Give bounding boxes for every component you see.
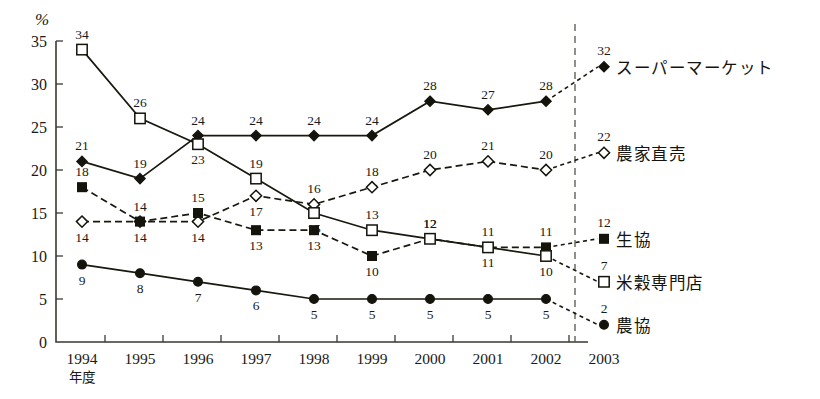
legend-entry[interactable]: 7米穀専門店 xyxy=(601,258,704,293)
y-axis-unit-label: % xyxy=(35,10,49,29)
legend-value: 32 xyxy=(597,43,611,58)
x-axis-tick-label: 1997 xyxy=(241,350,272,367)
marker-filled-circle xyxy=(252,286,261,295)
marker-open-square xyxy=(541,251,551,261)
marker-filled-diamond xyxy=(599,62,609,72)
marker-filled-circle xyxy=(542,295,551,304)
data-series xyxy=(78,260,609,329)
marker-filled-circle xyxy=(310,295,319,304)
data-point-label: 17 xyxy=(249,204,263,219)
x-axis-tick-label: 1994 xyxy=(67,350,98,367)
y-axis-tick-label: 15 xyxy=(31,205,47,222)
y-axis-tick-label: 35 xyxy=(31,33,47,50)
y-axis-tick-label: 10 xyxy=(31,248,47,265)
data-point-label: 34 xyxy=(75,27,89,42)
legend-entry[interactable]: 12生協 xyxy=(597,215,651,250)
marker-filled-circle xyxy=(600,320,609,329)
y-axis-tick-label: 0 xyxy=(39,334,47,351)
marker-filled-diamond xyxy=(483,105,493,115)
axis-layer: 05101520253035%1994199519961997199819992… xyxy=(31,10,620,385)
data-point-label: 23 xyxy=(191,152,205,167)
data-point-label: 28 xyxy=(423,78,437,93)
data-point-label: 27 xyxy=(481,87,495,102)
legend-entry[interactable]: 2農協 xyxy=(601,301,651,336)
data-point-label: 24 xyxy=(365,113,379,128)
marker-filled-square xyxy=(194,209,203,218)
data-point-label: 26 xyxy=(133,95,147,110)
data-point-label: 20 xyxy=(423,147,437,162)
data-point-label: 14 xyxy=(133,230,147,245)
marker-open-square xyxy=(425,234,435,244)
data-point-label: 12 xyxy=(423,216,437,231)
marker-open-diamond xyxy=(598,147,609,158)
legend-label: スーパーマーケット xyxy=(616,59,774,78)
data-point-label: 11 xyxy=(482,224,495,239)
y-axis-tick-label: 30 xyxy=(31,76,47,93)
data-point-label: 8 xyxy=(137,281,144,296)
marker-filled-square xyxy=(252,226,261,235)
marker-open-square xyxy=(367,225,377,235)
chart-axes xyxy=(56,41,588,342)
data-series xyxy=(76,147,609,227)
legend-entry[interactable]: 22農家直売 xyxy=(597,129,686,164)
legend-value: 12 xyxy=(597,215,611,230)
marker-open-square xyxy=(77,44,87,54)
data-point-label: 5 xyxy=(369,307,376,322)
legend-value: 22 xyxy=(597,129,611,144)
data-point-label: 19 xyxy=(133,156,147,171)
data-point-label: 18 xyxy=(365,164,379,179)
data-point-label: 19 xyxy=(249,156,263,171)
data-point-label: 11 xyxy=(540,224,553,239)
marker-filled-diamond xyxy=(425,96,435,106)
legend-entry[interactable]: 32スーパーマーケット xyxy=(597,43,773,78)
data-point-label: 6 xyxy=(253,298,260,313)
marker-filled-circle xyxy=(368,295,377,304)
data-point-label: 21 xyxy=(75,138,89,153)
x-axis-tick-label: 1996 xyxy=(183,350,214,367)
x-axis-tick-label: 1995 xyxy=(125,350,156,367)
series-projection-line xyxy=(546,153,598,170)
y-axis-tick-label: 20 xyxy=(31,162,47,179)
x-axis-tick-label: 2001 xyxy=(473,350,504,367)
x-axis-tick-label: 1999 xyxy=(357,350,388,367)
marker-filled-circle xyxy=(136,269,145,278)
legend-value: 7 xyxy=(601,258,608,273)
data-point-label: 16 xyxy=(307,181,321,196)
data-point-label: 14 xyxy=(191,230,205,245)
marker-open-diamond xyxy=(424,164,435,175)
marker-open-square xyxy=(251,173,261,183)
y-axis-tick-label: 5 xyxy=(39,291,47,308)
marker-filled-diamond xyxy=(309,130,319,140)
data-point-label: 28 xyxy=(539,78,553,93)
marker-open-diamond xyxy=(366,182,377,193)
series-line xyxy=(82,265,546,299)
series-projection-line xyxy=(546,67,598,101)
x-axis-tick-label: 2002 xyxy=(531,350,562,367)
marker-filled-circle xyxy=(484,295,493,304)
data-point-label: 15 xyxy=(191,190,205,205)
series-projection-line xyxy=(546,256,598,282)
marker-filled-square xyxy=(368,252,377,261)
legend-layer: 32スーパーマーケット22農家直売12生協7米穀専門店2農協 xyxy=(597,43,773,336)
legend-label: 生協 xyxy=(616,231,651,250)
marker-filled-diamond xyxy=(541,96,551,106)
legend-label: 農協 xyxy=(616,317,651,336)
marker-filled-diamond xyxy=(367,130,377,140)
data-point-label: 15 xyxy=(307,221,321,236)
data-point-label: 7 xyxy=(195,290,202,305)
series-layer xyxy=(76,44,609,329)
x-axis-tick-label: 1998 xyxy=(299,350,330,367)
marker-open-square xyxy=(309,208,319,218)
data-point-label: 13 xyxy=(307,238,321,253)
data-point-label: 13 xyxy=(249,238,263,253)
line-chart-plot: 05101520253035%1994199519961997199819992… xyxy=(0,0,820,399)
marker-open-diamond xyxy=(250,190,261,201)
data-point-label: 5 xyxy=(543,307,550,322)
marker-open-diamond xyxy=(482,156,493,167)
data-series xyxy=(77,62,609,184)
marker-filled-circle xyxy=(78,260,87,269)
x-axis-tick-label: 2000 xyxy=(415,350,446,367)
y-axis-tick-label: 25 xyxy=(31,119,47,136)
data-point-label: 20 xyxy=(539,147,553,162)
marker-filled-square xyxy=(600,234,609,243)
